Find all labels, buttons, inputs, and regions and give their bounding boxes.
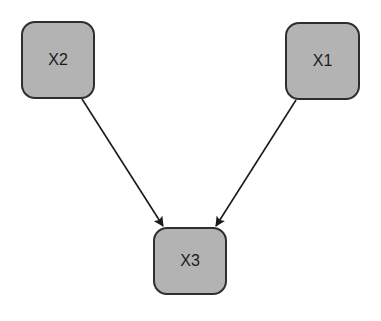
node-x1[interactable]: X1 xyxy=(285,22,360,100)
node-x3[interactable]: X3 xyxy=(153,227,227,295)
node-x2-label: X2 xyxy=(48,52,68,68)
diagram-canvas: X2 X1 X3 xyxy=(0,0,381,321)
node-x1-label: X1 xyxy=(313,53,333,69)
node-x3-label: X3 xyxy=(180,253,200,269)
node-x2[interactable]: X2 xyxy=(21,21,95,99)
edge-x2-to-x3 xyxy=(82,99,163,226)
edge-x1-to-x3 xyxy=(216,100,296,226)
